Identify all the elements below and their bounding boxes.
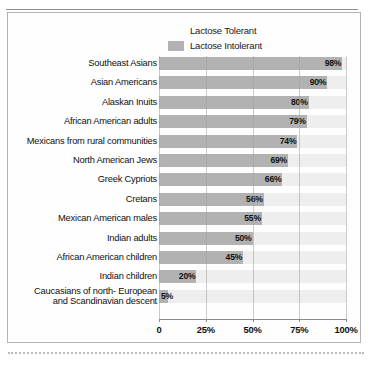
chart-bar-track-tolerant bbox=[159, 251, 346, 264]
chart-bar-track-tolerant bbox=[159, 115, 346, 128]
chart-bar-row: Cretans56% bbox=[0, 193, 372, 212]
chart-bar-value-label: 50% bbox=[235, 233, 252, 244]
chart-category-label: Greek Cypriots bbox=[7, 174, 157, 184]
chart-bar-intolerant bbox=[159, 96, 309, 109]
chart-bar-track-tolerant bbox=[159, 135, 346, 148]
chart-category-label: Indian adults bbox=[7, 233, 157, 243]
chart-bar-value-label: 80% bbox=[291, 97, 308, 108]
chart-bar-track-tolerant bbox=[159, 232, 346, 245]
chart-x-axis-tick-label: 75% bbox=[290, 324, 308, 335]
chart-category-label: Cretans bbox=[7, 194, 157, 204]
chart-bar-value-label: 74% bbox=[280, 136, 297, 147]
chart-bar-track-tolerant bbox=[159, 57, 346, 70]
chart-bar-intolerant bbox=[159, 135, 297, 148]
chart-bar-value-label: 45% bbox=[226, 252, 243, 263]
chart-bar-row: Greek Cypriots66% bbox=[0, 173, 372, 192]
chart-bar-row: African American children45% bbox=[0, 251, 372, 270]
chart-bar-row: African American adults79% bbox=[0, 115, 372, 134]
chart-bar-track-tolerant bbox=[159, 290, 346, 303]
chart-category-label: Alaskan Inuits bbox=[7, 97, 157, 107]
chart-bar-value-label: 66% bbox=[265, 174, 282, 185]
chart-x-axis-tick bbox=[206, 319, 207, 322]
chart-bar-value-label: 79% bbox=[289, 116, 306, 127]
chart-x-axis-tick-label: 100% bbox=[334, 324, 357, 335]
chart-bar-row: Mexicans from rural communities74% bbox=[0, 135, 372, 154]
chart-category-label: Asian Americans bbox=[7, 77, 157, 87]
chart-bar-intolerant bbox=[159, 76, 327, 89]
chart-bar-value-label: 56% bbox=[246, 194, 263, 205]
chart-bar-value-label: 5% bbox=[161, 291, 173, 302]
chart-bar-intolerant bbox=[159, 154, 288, 167]
chart-bar-row: Southeast Asians98% bbox=[0, 57, 372, 76]
chart-category-label: North American Jews bbox=[7, 155, 157, 165]
bottom-dotted-rule bbox=[8, 352, 364, 354]
chart-bar-track-tolerant bbox=[159, 154, 346, 167]
chart-category-label: Caucasians of north- European and Scandi… bbox=[7, 286, 157, 307]
chart-bar-intolerant bbox=[159, 57, 342, 70]
chart-category-label: African American adults bbox=[7, 116, 157, 126]
chart-bar-row: Alaskan Inuits80% bbox=[0, 96, 372, 115]
chart-x-axis-tick-label: 0 bbox=[156, 324, 161, 335]
chart-bar-value-label: 98% bbox=[325, 58, 342, 69]
chart-x-axis-tick bbox=[346, 319, 347, 322]
chart-x-axis-tick-label: 50% bbox=[243, 324, 261, 335]
chart-x-axis-tick bbox=[253, 319, 254, 322]
chart-category-label: Mexicans from rural communities bbox=[7, 136, 157, 146]
chart-bar-value-label: 69% bbox=[270, 155, 287, 166]
chart-bar-row: Indian adults50% bbox=[0, 232, 372, 251]
chart-category-label: Indian children bbox=[7, 271, 157, 281]
chart-bar-value-label: 55% bbox=[244, 213, 261, 224]
chart-bar-value-label: 90% bbox=[310, 77, 327, 88]
chart-x-axis-tick-label: 25% bbox=[197, 324, 215, 335]
chart-category-label: Southeast Asians bbox=[7, 58, 157, 68]
chart-bar-row: North American Jews69% bbox=[0, 154, 372, 173]
chart-bar-intolerant bbox=[159, 115, 307, 128]
chart-bar-row: Mexican American males55% bbox=[0, 212, 372, 231]
chart-x-axis-tick bbox=[159, 319, 160, 322]
chart-bar-value-label: 20% bbox=[179, 271, 196, 282]
chart-category-label: African American children bbox=[7, 252, 157, 262]
chart-bar-track-tolerant bbox=[159, 173, 346, 186]
chart-bar-row: Caucasians of north- European and Scandi… bbox=[0, 290, 372, 309]
chart-bar-track-tolerant bbox=[159, 96, 346, 109]
page-canvas: Lactose Tolerant Lactose Intolerant Sout… bbox=[0, 0, 372, 366]
chart-plot-area: Southeast Asians98%Asian Americans90%Ala… bbox=[0, 0, 372, 366]
chart-category-label: Mexican American males bbox=[7, 213, 157, 223]
chart-x-axis-tick bbox=[299, 319, 300, 322]
chart-bar-row: Asian Americans90% bbox=[0, 76, 372, 95]
